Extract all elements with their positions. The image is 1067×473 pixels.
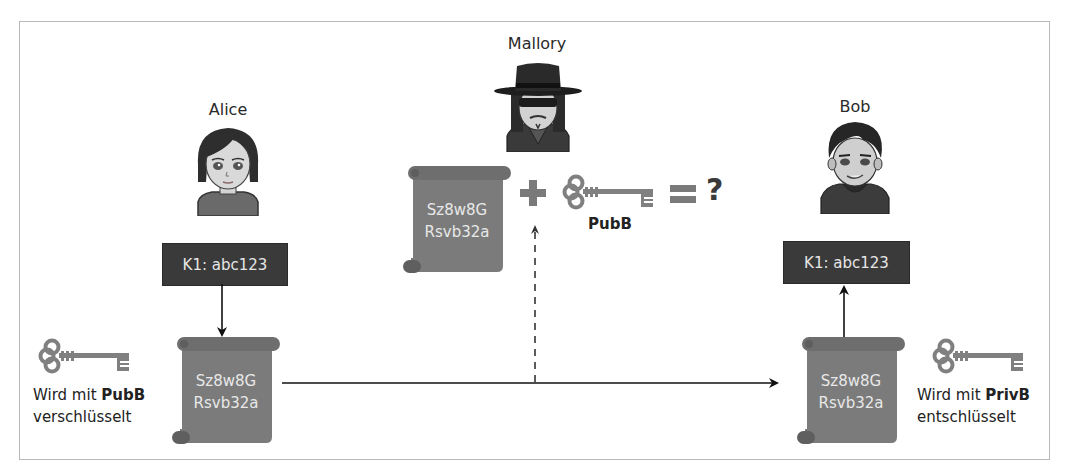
bob-caption-prefix: Wird mit <box>917 386 985 404</box>
alice-ciphertext-scroll: Sz8w8G Rsvb32a <box>172 337 280 445</box>
alice-cipher-line1: Sz8w8G <box>172 370 280 392</box>
alice-cipher-line2: Rsvb32a <box>172 392 280 414</box>
alice-caption-prefix: Wird mit <box>33 386 101 404</box>
alice-name-label: Alice <box>168 100 288 119</box>
equals-operator-icon <box>670 185 696 203</box>
alice-plaintext-key-text: K1: abc123 <box>183 256 268 274</box>
arrow-encrypt-down <box>212 284 232 340</box>
mallory-avatar-icon <box>493 58 583 152</box>
alice-caption-suffix: verschlüsselt <box>33 406 145 428</box>
mallory-name-label: Mallory <box>477 34 597 53</box>
bob-avatar-icon <box>815 120 895 214</box>
unknown-result-question-mark: ? <box>706 172 723 207</box>
mallory-cipher-line2: Rsvb32a <box>403 221 511 243</box>
mallory-pubb-key-icon <box>562 174 656 210</box>
plus-operator-icon <box>520 180 546 206</box>
bob-caption-key: PrivB <box>985 386 1030 404</box>
alice-caption-key: PubB <box>101 386 145 404</box>
bob-cipher-line1: Sz8w8G <box>797 370 905 392</box>
alice-plaintext-key-box: K1: abc123 <box>162 243 288 286</box>
alice-avatar-icon <box>190 124 266 216</box>
alice-encrypt-caption: Wird mit PubB verschlüsselt <box>33 384 145 428</box>
bob-cipher-line2: Rsvb32a <box>797 392 905 414</box>
bob-plaintext-key-box: K1: abc123 <box>783 241 910 284</box>
mallory-cipher-line1: Sz8w8G <box>403 199 511 221</box>
arrow-decrypt-up <box>834 282 854 338</box>
mallory-pubb-label: PubB <box>588 215 632 233</box>
bob-decrypt-caption: Wird mit PrivB entschlüsselt <box>917 384 1030 428</box>
bob-plaintext-key-text: K1: abc123 <box>804 254 889 272</box>
bob-caption-suffix: entschlüsselt <box>917 406 1030 428</box>
alice-key-icon <box>38 338 132 374</box>
bob-key-icon <box>932 338 1026 374</box>
arrow-intercept-dashed <box>527 218 543 384</box>
bob-ciphertext-scroll: Sz8w8G Rsvb32a <box>797 337 905 445</box>
bob-name-label: Bob <box>795 97 915 116</box>
mallory-ciphertext-scroll: Sz8w8G Rsvb32a <box>403 166 511 274</box>
